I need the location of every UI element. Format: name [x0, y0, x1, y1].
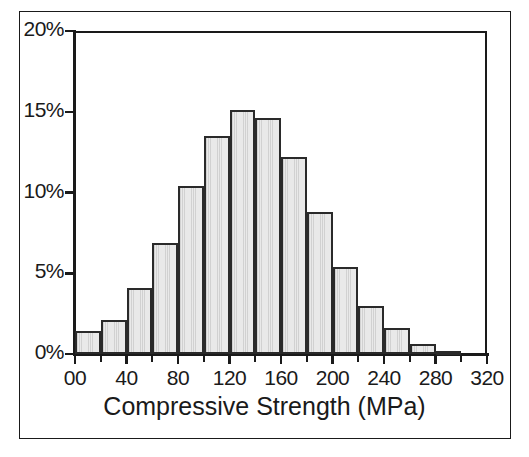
- y-axis-tick-label: 20%: [23, 17, 64, 41]
- x-axis-tick-label: 120: [213, 366, 247, 390]
- histogram-bar: [410, 344, 436, 354]
- y-axis-tick-label: 15%: [23, 98, 64, 122]
- x-axis-minor-tick: [460, 355, 462, 362]
- y-axis-tick: [65, 111, 73, 114]
- x-axis-tick: [280, 355, 282, 364]
- histogram-bar: [230, 110, 256, 354]
- histogram-figure: 0%5%10%15%20% 004080120160200240280320 C…: [0, 0, 529, 457]
- x-axis-minor-tick: [357, 355, 359, 362]
- x-axis-tick-label: 200: [316, 366, 350, 390]
- x-axis-tick-label: 00: [64, 366, 86, 390]
- x-axis-tick-label: 320: [470, 366, 504, 390]
- histogram-bar: [358, 306, 384, 354]
- histogram-bar: [127, 288, 153, 354]
- x-axis-tick-label: 80: [167, 366, 189, 390]
- y-axis-tick-label: 10%: [23, 179, 64, 203]
- y-axis-tick-labels: 0%5%10%15%20%: [0, 0, 64, 457]
- histogram-bar: [255, 118, 281, 354]
- y-axis-tick: [65, 272, 73, 275]
- y-axis-line: [73, 30, 76, 356]
- histogram-bar: [178, 186, 204, 354]
- x-axis-tick: [331, 355, 333, 364]
- x-axis-minor-tick: [254, 355, 256, 362]
- x-axis-tick-label: 40: [115, 366, 137, 390]
- x-axis-tick-label: 280: [419, 366, 453, 390]
- histogram-bar: [333, 267, 359, 354]
- x-axis-title: Compressive Strength (MPa): [0, 392, 529, 421]
- x-axis-minor-tick: [151, 355, 153, 362]
- x-axis-tick: [434, 355, 436, 364]
- x-axis-tick: [228, 355, 230, 364]
- y-axis-tick: [65, 191, 73, 194]
- y-axis-tick-label: 0%: [35, 340, 64, 364]
- x-axis-tick: [486, 355, 488, 364]
- histogram-bar: [281, 157, 307, 354]
- x-axis-tick: [125, 355, 127, 364]
- y-axis-tick-label: 5%: [35, 259, 64, 283]
- x-axis-tick: [74, 355, 76, 364]
- x-axis-minor-tick: [409, 355, 411, 362]
- x-axis-tick-label: 160: [264, 366, 298, 390]
- histogram-bar: [204, 136, 230, 354]
- x-axis-tick-label: 240: [367, 366, 401, 390]
- y-axis-tick: [65, 30, 73, 33]
- histogram-bar: [152, 243, 178, 354]
- histogram-bar: [436, 351, 462, 355]
- y-axis-tick: [65, 353, 73, 356]
- histogram-bar: [307, 212, 333, 354]
- x-axis-tick: [177, 355, 179, 364]
- x-axis-tick: [383, 355, 385, 364]
- histogram-bar: [101, 320, 127, 354]
- x-axis-minor-tick: [306, 355, 308, 362]
- histogram-bar: [75, 331, 101, 354]
- histogram-bar: [384, 328, 410, 354]
- x-axis-minor-tick: [100, 355, 102, 362]
- x-axis-minor-tick: [203, 355, 205, 362]
